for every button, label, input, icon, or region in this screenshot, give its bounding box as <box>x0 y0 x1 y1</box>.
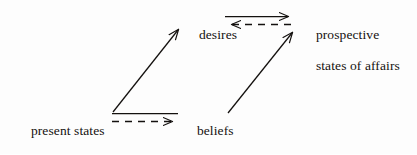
node-prospective-line1: prospective <box>316 27 379 42</box>
node-desires: desires <box>185 11 237 58</box>
diagram-canvas: desires prospective states of affairs pr… <box>0 0 417 154</box>
node-desires-line1: desires <box>199 27 237 42</box>
node-prospective-states-of-affairs: prospective states of affairs <box>302 11 400 89</box>
edge-present-to-desires-diagonal <box>113 30 178 112</box>
node-beliefs-line1: beliefs <box>197 123 234 138</box>
node-present-states-of-affairs: present states of affairs <box>17 107 105 154</box>
edge-beliefs-to-prospective-diagonal <box>228 33 292 113</box>
node-beliefs: beliefs <box>183 107 234 154</box>
node-present-line2: of affairs <box>31 154 81 155</box>
node-present-line1: present states <box>31 123 105 138</box>
node-prospective-line2: states of affairs <box>316 58 400 73</box>
